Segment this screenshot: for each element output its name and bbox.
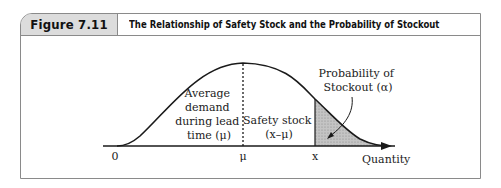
average-demand-label: Average demand during lead time (μ) [175,87,243,142]
axis-zero-label: 0 [112,150,119,163]
axis-x-label: x [312,150,319,163]
axis-mu-label: μ [239,150,246,163]
normal-distribution-diagram: Average demand during lead time (μ) Safe… [0,0,501,188]
probability-stockout-label: Probability of Stockout (α) [319,67,398,94]
axis-arrow-icon [381,142,392,150]
safety-stock-label: Safety stock (x–μ) [243,114,315,141]
axis-title: Quantity [362,153,411,166]
